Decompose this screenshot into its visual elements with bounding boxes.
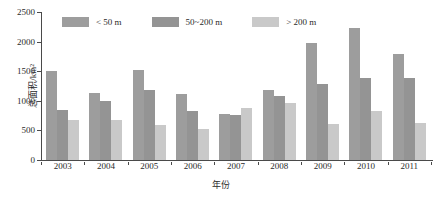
legend-item: 50~200 m [152,17,223,27]
bar [176,94,187,160]
y-tick-label: 500 [22,126,36,135]
legend-swatch [252,17,279,27]
x-tick-mark [41,162,42,165]
bar [241,108,252,160]
x-axis-label: 2007 [215,162,257,172]
x-tick-mark [214,162,215,165]
bar-group [133,12,166,160]
bar [371,111,382,160]
bar [68,120,79,160]
legend: < 50 m50~200 m> 200 m [62,17,346,27]
bar [263,90,274,160]
legend-label: > 200 m [286,17,316,27]
bar-group [263,12,296,160]
bar [274,96,285,160]
x-axis-label: 2009 [302,162,344,172]
bar [46,71,57,160]
bar [57,110,68,160]
y-tick-label: 1500 [17,67,35,76]
y-tick-label: 2500 [17,8,35,17]
x-axis-title: 年份 [0,178,441,191]
bar-group [89,12,122,160]
bar-group [306,12,339,160]
bar-group [219,12,252,160]
legend-swatch [62,17,89,27]
bar [198,129,209,160]
bar [89,93,100,160]
bar [219,114,230,160]
bar [111,120,122,160]
legend-item: > 200 m [252,17,316,27]
bar [404,78,415,160]
bar [155,125,166,160]
plot-area: 总面积/km² 05001000150020002500 [41,12,431,160]
legend-item: < 50 m [62,17,122,27]
bar-chart: 总面积/km² 05001000150020002500 20032004200… [0,0,441,201]
x-tick-mark [301,162,302,165]
y-tick-label: 2000 [17,37,35,46]
x-tick-mark [128,162,129,165]
bar [317,84,328,160]
bar [306,43,317,160]
y-tick-mark [37,160,41,161]
x-tick-mark [171,162,172,165]
bar [360,78,371,160]
x-tick-mark [258,162,259,165]
x-axis-label: 2005 [128,162,170,172]
bar-group [46,12,79,160]
bar-group [349,12,382,160]
x-axis-label: 2008 [258,162,300,172]
bar [415,123,426,160]
y-tick-label: 0 [31,156,36,165]
x-axis-label: 2006 [172,162,214,172]
bar [393,54,404,160]
x-axis-label: 2003 [42,162,84,172]
x-axis-label: 2004 [85,162,127,172]
x-axis-label: 2011 [388,162,430,172]
bars-container [41,12,431,160]
legend-swatch [152,17,179,27]
bar [133,70,144,160]
bar-group [393,12,426,160]
x-axis-labels: 200320042005200620072008200920102011 [41,162,431,172]
bar [285,103,296,160]
x-tick-mark [84,162,85,165]
bar [230,115,241,160]
y-tick-label: 1000 [17,96,35,105]
x-tick-mark [431,162,432,165]
bar [328,124,339,160]
bar-group [176,12,209,160]
bar [349,28,360,160]
bar [187,111,198,160]
legend-label: 50~200 m [186,17,223,27]
bar [144,90,155,160]
legend-label: < 50 m [96,17,122,27]
x-axis-label: 2010 [345,162,387,172]
x-tick-mark [388,162,389,165]
x-tick-mark [344,162,345,165]
bar [100,101,111,160]
